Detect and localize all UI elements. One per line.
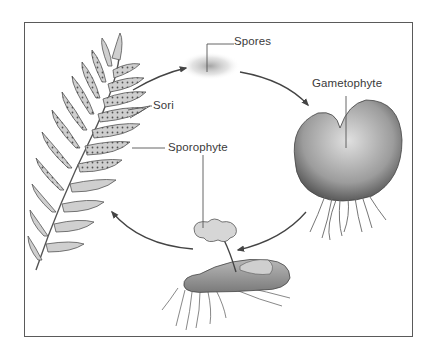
label-sporophyte: Sporophyte xyxy=(168,142,228,154)
spores-cloud xyxy=(180,52,240,80)
gametophyte xyxy=(294,100,402,240)
arrow-gametophyte-to-sporophyte xyxy=(238,212,306,250)
label-sori: Sori xyxy=(153,100,174,112)
fern-frond xyxy=(28,33,146,270)
arrow-spores-to-gametophyte xyxy=(240,72,308,105)
label-spores: Spores xyxy=(234,36,271,48)
label-gametophyte: Gametophyte xyxy=(312,78,382,90)
young-sporophyte xyxy=(162,219,290,330)
fern-life-cycle-illustration xyxy=(0,0,438,351)
arrow-sporophyte-to-frond xyxy=(112,212,193,249)
